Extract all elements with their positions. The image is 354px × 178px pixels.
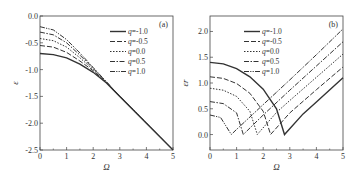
y-tick-label: -1.5 xyxy=(25,92,38,101)
x-tick-label: 0 xyxy=(38,152,42,161)
x-tick-label: 0 xyxy=(208,152,212,161)
legend-item: q=1.0 xyxy=(262,67,280,76)
x-tick-label: 2 xyxy=(261,152,265,161)
y-axis-label: εr xyxy=(180,79,190,87)
legend-item: q=-1.0 xyxy=(262,27,282,36)
series-line xyxy=(40,39,173,151)
y-tick-label: 0.5 xyxy=(198,105,208,114)
panel-label: (b) xyxy=(329,20,339,29)
y-tick-label: 0.0 xyxy=(28,12,38,21)
x-tick-label: 1 xyxy=(235,152,239,161)
panel-b: 0123450.00.51.01.52.0Ωεr(b)q=-1.0q=-0.5q… xyxy=(180,16,345,172)
legend-item: q=-0.5 xyxy=(128,37,148,46)
x-tick-label: 1 xyxy=(65,152,69,161)
y-tick-label: 0.0 xyxy=(198,131,208,140)
y-tick-label: -2.0 xyxy=(25,119,38,128)
x-tick-label: 5 xyxy=(341,152,345,161)
panel-a: 0123450.0-0.5-1.0-1.5-2.0-2.5Ωε(a)q=-1.0… xyxy=(10,12,175,172)
legend-item: q=-0.5 xyxy=(262,37,282,46)
series-line xyxy=(40,46,173,151)
legend: q=-1.0q=-0.5q=0.0q=0.5q=1.0 xyxy=(110,27,148,76)
y-tick-label: 1.0 xyxy=(198,79,208,88)
legend-item: q=-1.0 xyxy=(128,27,148,36)
series-line xyxy=(40,27,173,150)
y-tick-label: -2.5 xyxy=(25,146,38,155)
y-tick-label: -1.0 xyxy=(25,66,38,75)
y-tick-label: 2.0 xyxy=(198,27,208,36)
x-tick-label: 5 xyxy=(171,152,175,161)
legend-item: q=0.5 xyxy=(128,57,146,66)
y-axis-label: ε xyxy=(10,81,20,85)
x-axis-label: Ω xyxy=(273,162,280,172)
x-tick-label: 2 xyxy=(91,152,95,161)
legend-item: q=0.0 xyxy=(262,47,280,56)
x-tick-label: 4 xyxy=(314,152,318,161)
legend: q=-1.0q=-0.5q=0.0q=0.5q=1.0 xyxy=(244,27,282,76)
x-tick-label: 4 xyxy=(144,152,148,161)
x-axis-label: Ω xyxy=(103,162,110,172)
figure: 0123450.0-0.5-1.0-1.5-2.0-2.5Ωε(a)q=-1.0… xyxy=(0,0,354,178)
legend-item: q=0.0 xyxy=(128,47,146,56)
y-tick-label: -0.5 xyxy=(25,39,38,48)
panel-label: (a) xyxy=(159,20,168,29)
series-line xyxy=(40,32,173,150)
series-line xyxy=(40,54,173,151)
series-line xyxy=(210,67,343,135)
legend-item: q=0.5 xyxy=(262,57,280,66)
legend-item: q=1.0 xyxy=(128,67,146,76)
y-tick-label: 1.5 xyxy=(198,53,208,62)
x-tick-label: 3 xyxy=(288,152,292,161)
x-tick-label: 3 xyxy=(118,152,122,161)
